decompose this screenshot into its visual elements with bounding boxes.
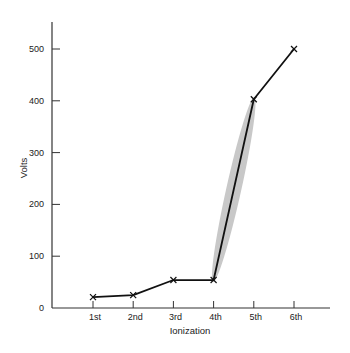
y-tick-label: 0: [39, 303, 44, 313]
x-tick-label: 6th: [290, 312, 303, 322]
x-axis-title: Ionization: [170, 325, 211, 336]
y-axis-ticks: 0100200300400500: [29, 44, 60, 313]
ionization-chart: 0100200300400500 1st2nd3rd4th5th6th Volt…: [0, 0, 350, 353]
y-tick-label: 300: [29, 148, 44, 158]
y-tick-label: 100: [29, 251, 44, 261]
x-tick-label: 5th: [250, 312, 263, 322]
x-tick-label: 3rd: [169, 312, 182, 322]
x-tick-label: 1st: [89, 312, 102, 322]
y-tick-label: 400: [29, 96, 44, 106]
series-line: [93, 49, 294, 297]
y-tick-label: 200: [29, 199, 44, 209]
data-line: [93, 49, 294, 297]
x-tick-label: 2nd: [128, 312, 143, 322]
y-tick-label: 500: [29, 44, 44, 54]
x-tick-label: 4th: [209, 312, 222, 322]
axes: [52, 22, 330, 308]
x-marker-icon: [291, 46, 297, 52]
y-axis-title: Volts: [18, 157, 29, 178]
x-axis-ticks: 1st2nd3rd4th5th6th: [89, 301, 302, 322]
